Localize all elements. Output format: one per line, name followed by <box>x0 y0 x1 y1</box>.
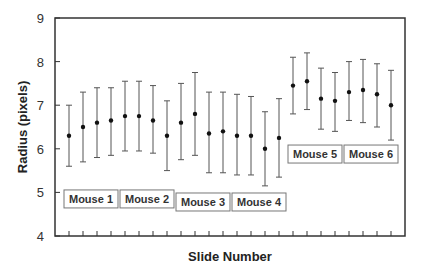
y-tick-label: 7 <box>37 98 44 113</box>
mouse-label-text: Mouse 3 <box>181 196 225 208</box>
y-axis-title: Radius (pixels) <box>15 81 30 173</box>
marker <box>151 118 155 122</box>
mouse-label-box: Mouse 6 <box>344 145 398 163</box>
marker <box>221 129 225 133</box>
marker <box>277 136 281 140</box>
marker <box>123 114 127 118</box>
mouse-label-box: Mouse 5 <box>288 145 342 163</box>
mouse-label-text: Mouse 2 <box>125 193 169 205</box>
mouse-label-box: Mouse 4 <box>232 193 286 211</box>
marker <box>319 96 323 100</box>
data-point <box>290 57 296 114</box>
marker <box>235 134 239 138</box>
data-point <box>150 86 156 154</box>
marker <box>375 92 379 96</box>
data-point <box>304 53 310 110</box>
mouse-label-text: Mouse 4 <box>237 196 282 208</box>
data-point <box>178 83 184 159</box>
data-point <box>108 88 114 156</box>
y-tick-label: 8 <box>37 55 44 70</box>
marker <box>263 147 267 151</box>
data-point <box>332 73 338 132</box>
x-axis-title: Slide Number <box>188 249 272 264</box>
marker <box>333 99 337 103</box>
y-tick-label: 9 <box>37 11 44 26</box>
data-point <box>164 101 170 171</box>
data-point <box>192 73 198 156</box>
y-tick-label: 5 <box>37 185 44 200</box>
mouse-label-box: Mouse 3 <box>176 193 230 211</box>
mouse-label-text: Mouse 6 <box>349 148 393 160</box>
data-point <box>276 99 282 177</box>
data-point <box>66 105 72 166</box>
data-point <box>234 94 240 175</box>
data-point <box>206 92 212 173</box>
mouse-label-text: Mouse 1 <box>69 193 113 205</box>
y-tick-label: 4 <box>37 229 44 244</box>
error-bar-chart: 4 5 6 7 8 9 Radius (pixels) Slide Number… <box>0 0 428 276</box>
marker <box>179 120 183 124</box>
marker <box>291 83 295 87</box>
data-point <box>220 92 226 173</box>
marker <box>137 114 141 118</box>
data-point <box>80 92 86 162</box>
marker <box>249 134 253 138</box>
marker <box>165 134 169 138</box>
marker <box>207 131 211 135</box>
mouse-label-box: Mouse 2 <box>120 190 174 208</box>
data-point <box>360 59 366 122</box>
marker <box>109 118 113 122</box>
data-point <box>262 112 268 186</box>
data-point <box>136 81 142 151</box>
mouse-labels: Mouse 1Mouse 2Mouse 3Mouse 4Mouse 5Mouse… <box>64 145 398 211</box>
marker <box>95 120 99 124</box>
marker <box>193 112 197 116</box>
data-point <box>388 70 394 140</box>
data-point <box>346 62 352 121</box>
data-point <box>94 88 100 158</box>
data-point <box>374 64 380 127</box>
data-point <box>318 68 324 129</box>
data-point <box>122 81 128 151</box>
marker <box>81 125 85 129</box>
marker <box>347 90 351 94</box>
marker <box>361 88 365 92</box>
mouse-label-box: Mouse 1 <box>64 190 118 208</box>
mouse-label-text: Mouse 5 <box>293 148 337 160</box>
marker <box>305 79 309 83</box>
y-tick-label: 6 <box>37 142 44 157</box>
error-bars <box>66 53 394 186</box>
data-point <box>248 96 254 174</box>
marker <box>67 134 71 138</box>
marker <box>389 103 393 107</box>
y-axis: 4 5 6 7 8 9 <box>37 11 60 244</box>
